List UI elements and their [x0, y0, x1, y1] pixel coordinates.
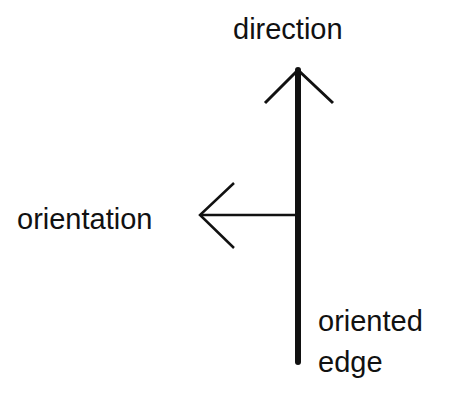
- direction-label: direction: [233, 15, 343, 44]
- orientation-label: orientation: [17, 205, 152, 234]
- diagram-canvas: [0, 0, 453, 399]
- oriented-edge-label-line2: edge: [318, 348, 383, 377]
- oriented-edge-label-line1: oriented: [318, 307, 423, 336]
